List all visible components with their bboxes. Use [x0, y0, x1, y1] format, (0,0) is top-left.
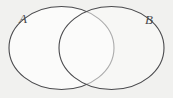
set-a-label: A — [19, 12, 27, 25]
venn-diagram-figure: A B — [0, 0, 173, 98]
set-b-label: B — [145, 13, 153, 26]
